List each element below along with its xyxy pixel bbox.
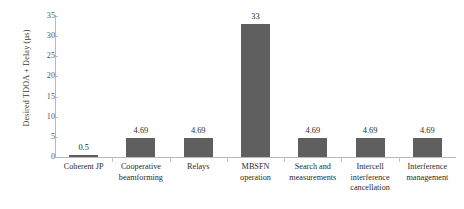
y-tick-label: 10 [37, 113, 55, 121]
bar [126, 138, 155, 157]
x-axis-label: Intercell interference cancellation [341, 162, 399, 194]
x-axis-label: Relays [169, 162, 227, 173]
bar-chart: Desired TDOA + Delay (µs) 05101520253035… [0, 0, 464, 209]
x-axis-label: Interference management [398, 162, 456, 183]
y-tick-label: 0 [37, 153, 55, 161]
y-tick-label: 25 [37, 52, 55, 60]
x-axis-label: Coherent JP [55, 162, 113, 173]
bar-value-label: 4.69 [404, 127, 450, 135]
bar-value-label: 33 [233, 13, 279, 21]
bar [241, 24, 270, 157]
y-tick-label: 5 [37, 133, 55, 141]
bar-value-label: 4.69 [347, 127, 393, 135]
x-axis-label: Cooperative beamforming [112, 162, 170, 183]
bar-value-label: 4.69 [118, 127, 164, 135]
bar [69, 155, 98, 157]
y-tick-label: 20 [37, 72, 55, 80]
bar [184, 138, 213, 157]
y-tick-label: 35 [37, 12, 55, 20]
x-axis-label: Search and measurements [284, 162, 342, 183]
y-axis-ticks: 05101520253035 [33, 0, 55, 209]
bar-value-label: 0.5 [61, 144, 107, 152]
y-tick-label: 30 [37, 32, 55, 40]
bar [413, 138, 442, 157]
y-tick-label: 15 [37, 92, 55, 100]
x-axis-label: MBSFN operation [227, 162, 285, 183]
x-axis-line [55, 157, 456, 158]
bar-value-label: 4.69 [175, 127, 221, 135]
bar [356, 138, 385, 157]
bar-value-label: 4.69 [290, 127, 336, 135]
bar [298, 138, 327, 157]
